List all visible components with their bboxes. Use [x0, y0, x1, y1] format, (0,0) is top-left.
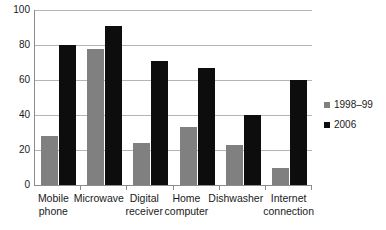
- bar-group: [127, 10, 173, 185]
- legend-item[interactable]: 1998–99: [324, 98, 386, 112]
- x-axis-tick-mark: [174, 186, 220, 190]
- bar: [59, 45, 76, 185]
- bar-group: [266, 10, 312, 185]
- x-axis-category-label-line: Digital: [124, 192, 165, 205]
- bar-groups: [35, 10, 312, 185]
- x-axis-tick-mark: [35, 186, 81, 190]
- chart-legend: 1998–992006: [324, 98, 386, 138]
- bar: [226, 145, 243, 185]
- legend-item[interactable]: 2006: [324, 118, 386, 132]
- bar: [133, 143, 150, 185]
- x-axis-category-label-line: Microwave: [74, 192, 124, 205]
- y-axis-tick-label: 80: [2, 40, 30, 50]
- x-axis-category-label: Digitalreceiver: [124, 192, 165, 217]
- x-axis-category-label-line: phone: [33, 205, 74, 218]
- x-axis-category-label-line: Mobile: [33, 192, 74, 205]
- x-axis-tick-marks: [35, 186, 312, 190]
- bar: [198, 68, 215, 185]
- bar-group: [35, 10, 81, 185]
- x-axis-category-label: Internetconnection: [263, 192, 314, 217]
- legend-swatch-icon: [324, 102, 330, 108]
- bar: [244, 115, 261, 185]
- x-axis-category-labels: MobilephoneMicrowaveDigitalreceiverHomec…: [33, 192, 314, 217]
- x-axis-tick-mark: [81, 186, 127, 190]
- bar-group: [174, 10, 220, 185]
- y-axis-tick-label: 20: [2, 145, 30, 155]
- x-axis-category-label-line: computer: [165, 205, 209, 218]
- x-axis-tick-mark: [266, 186, 312, 190]
- bar-group: [81, 10, 127, 185]
- bar: [180, 127, 197, 185]
- bar-chart: 100806040200 MobilephoneMicrowaveDigital…: [0, 0, 386, 230]
- legend-item-label: 2006: [334, 120, 356, 130]
- x-axis-category-label-line: receiver: [124, 205, 165, 218]
- legend-swatch-icon: [324, 122, 330, 128]
- bar-group: [220, 10, 266, 185]
- bar: [151, 61, 168, 185]
- bar: [87, 49, 104, 186]
- x-axis-category-label-line: Internet: [263, 192, 314, 205]
- x-axis-tick-mark: [220, 186, 266, 190]
- x-axis-category-label: Microwave: [74, 192, 124, 217]
- y-axis-tick-label: 100: [2, 5, 30, 15]
- bar: [41, 136, 58, 185]
- y-axis-tick-label: 40: [2, 110, 30, 120]
- x-axis-category-label: Homecomputer: [165, 192, 209, 217]
- y-axis-tick-label: 60: [2, 75, 30, 85]
- bar: [105, 26, 122, 185]
- x-axis-category-label-line: Home: [165, 192, 209, 205]
- x-axis-category-label-line: Dishwasher: [208, 192, 263, 205]
- bar: [290, 80, 307, 185]
- x-axis-category-label-line: connection: [263, 205, 314, 218]
- x-axis-tick-mark: [127, 186, 173, 190]
- y-axis-tick-labels: 100806040200: [0, 0, 30, 230]
- bar: [272, 168, 289, 186]
- y-axis-tick-label: 0: [2, 180, 30, 190]
- x-axis-category-label: Dishwasher: [208, 192, 263, 217]
- legend-item-label: 1998–99: [334, 100, 373, 110]
- x-axis-category-label: Mobilephone: [33, 192, 74, 217]
